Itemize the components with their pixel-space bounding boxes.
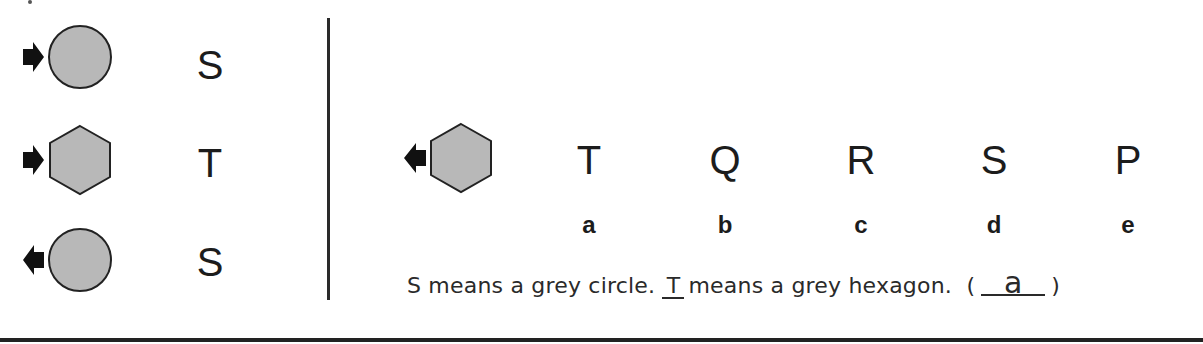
grey-circle-icon (49, 229, 111, 291)
statement-part-1: S means a grey circle. (407, 273, 655, 298)
question-figure (400, 122, 500, 198)
row-2-letter: T (180, 143, 240, 183)
option-c-label[interactable]: c (841, 213, 881, 237)
answer-blank[interactable]: a (981, 272, 1045, 296)
statement-part-2: means a grey hexagon. (688, 273, 952, 298)
answer-statement: S means a grey circle. Tmeans a grey hex… (407, 272, 1060, 300)
option-e-label[interactable]: e (1108, 213, 1148, 237)
arrow-left-icon (404, 143, 426, 173)
row-1-figure (20, 24, 120, 94)
close-paren: ) (1051, 272, 1060, 300)
option-a-letter: T (559, 140, 619, 180)
row-3-figure (20, 227, 120, 297)
arrow-right-icon (23, 145, 44, 175)
grey-hexagon-icon (50, 126, 110, 194)
vertical-divider (327, 18, 330, 300)
arrow-left-icon (23, 245, 44, 275)
row-3-letter: S (180, 242, 240, 282)
option-b-label[interactable]: b (705, 213, 745, 237)
bottom-border (0, 338, 1203, 342)
row-2-figure (20, 124, 120, 200)
arrow-right-icon (23, 42, 44, 72)
grey-circle-icon (49, 26, 111, 88)
open-paren: ( (966, 272, 975, 300)
row-1-letter: S (180, 45, 240, 85)
cropped-text-fragment (28, 0, 32, 4)
option-e-letter: P (1098, 140, 1158, 180)
option-a-label[interactable]: a (569, 213, 609, 237)
option-c-letter: R (831, 140, 891, 180)
grey-hexagon-icon (431, 124, 491, 192)
option-d-letter: S (964, 140, 1024, 180)
filled-letter-blank[interactable]: T (662, 275, 684, 299)
option-d-label[interactable]: d (974, 213, 1014, 237)
option-b-letter: Q (695, 140, 755, 180)
